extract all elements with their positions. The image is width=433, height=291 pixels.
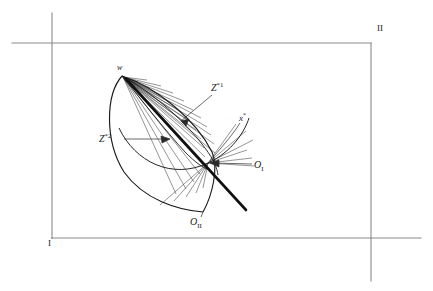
label-x-star-sup: * — [243, 112, 246, 118]
leader-z2 — [124, 136, 170, 143]
frame-axes — [12, 13, 421, 281]
label-quadrant-two: II — [377, 24, 383, 33]
label-origin-two: OII — [190, 217, 202, 230]
diagram-canvas — [0, 0, 433, 291]
leader-z1 — [181, 95, 212, 126]
principal-thick-line — [126, 79, 246, 210]
label-quadrant-one: I — [48, 239, 51, 248]
label-curve-z1: Z*1 — [211, 82, 223, 93]
label-origin-two-sub: II — [197, 222, 202, 229]
label-curve-z1-index: 1 — [220, 81, 223, 88]
label-origin-one-sub: I — [261, 165, 263, 172]
geometric-diagram-figure: I II w Z*1 Z*2 x* OI OII — [0, 0, 433, 291]
label-curve-z2-index: 2 — [108, 132, 111, 139]
leader-origin-one — [210, 160, 252, 167]
label-vertex-w: w — [117, 64, 122, 72]
label-origin-one: OI — [254, 160, 264, 173]
lens-left-arc — [110, 76, 204, 212]
label-x-star: x* — [239, 112, 246, 123]
chord-fan-upper — [123, 77, 215, 153]
label-curve-z2: Z*2 — [99, 133, 111, 144]
